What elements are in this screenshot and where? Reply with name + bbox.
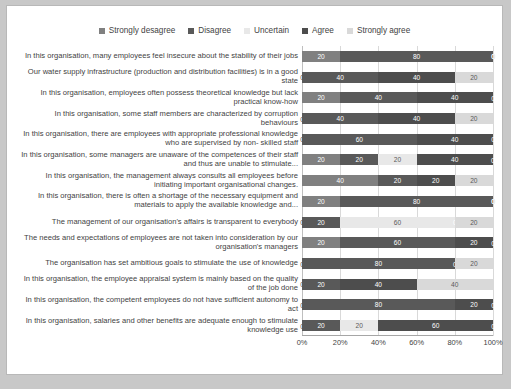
stacked-bar[interactable]: 02004040 — [302, 279, 493, 290]
category-label: The needs and expectations of employees … — [16, 234, 302, 252]
stacked-bar[interactable]: 20600200 — [302, 237, 493, 248]
bar-segment[interactable]: 80 — [302, 258, 455, 269]
legend-label: Strongly desagree — [109, 26, 175, 35]
bar-segment[interactable]: 40 — [417, 279, 493, 290]
chart-row: In this organisation, the competent empl… — [16, 295, 493, 316]
bar-value-label: 60 — [394, 239, 401, 246]
bar-segment[interactable]: 20 — [302, 196, 340, 207]
bar-segment[interactable]: 80 — [340, 51, 493, 62]
bar-segment[interactable]: 20 — [302, 51, 340, 62]
bar-segment[interactable]: 20 — [378, 175, 416, 186]
bar-segment[interactable]: 20 — [302, 237, 340, 248]
category-label: In this organisation, salaries and other… — [16, 317, 302, 335]
bar-segment[interactable]: 20 — [302, 92, 340, 103]
bar-segment[interactable]: 20 — [302, 279, 340, 290]
bar-value-label: 60 — [432, 322, 439, 329]
category-label: In this organisation, the employee appra… — [16, 275, 302, 293]
bar-value-label: 20 — [470, 74, 477, 81]
bar-segment[interactable]: 40 — [417, 92, 493, 103]
legend-swatch-icon — [244, 28, 250, 34]
bar-value-label: 20 — [317, 156, 324, 163]
legend-label: Uncertain — [254, 26, 289, 35]
bar-value-label: 20 — [432, 177, 439, 184]
plot-area: In this organisation, many employees fee… — [16, 46, 493, 366]
legend-swatch-icon — [347, 28, 353, 34]
bar-value-label: 80 — [413, 198, 420, 205]
bar-value-label: 0 — [491, 136, 495, 143]
bar-segment[interactable]: 40 — [302, 72, 378, 83]
chart-row: In this organisation, the employee appra… — [16, 274, 493, 295]
bar-segment[interactable]: 20 — [378, 154, 416, 165]
bar-segment[interactable]: 20 — [455, 175, 493, 186]
bar-segment[interactable]: 20 — [340, 320, 378, 331]
bar-segment[interactable]: 40 — [302, 113, 378, 124]
bar-value-label: 80 — [375, 301, 382, 308]
bar-segment[interactable]: 20 — [455, 237, 493, 248]
legend-swatch-icon — [302, 28, 308, 34]
bar-segment[interactable]: 20 — [302, 320, 340, 331]
bar-segment[interactable]: 40 — [340, 92, 416, 103]
x-tick-label: 60% — [409, 338, 424, 347]
chart-row: In this organisation, some managers are … — [16, 150, 493, 171]
bar-segment[interactable]: 60 — [378, 320, 493, 331]
stacked-bar[interactable]: 2080000 — [302, 51, 493, 62]
bar-segment[interactable]: 20 — [417, 175, 455, 186]
stacked-bar[interactable]: 20400400 — [302, 92, 493, 103]
bar-segment[interactable]: 40 — [417, 154, 493, 165]
bar-value-label: 20 — [470, 260, 477, 267]
stacked-bar[interactable]: 02060020 — [302, 217, 493, 228]
chart-row: In this organisation, salaries and other… — [16, 315, 493, 336]
bar-segment[interactable]: 20 — [455, 217, 493, 228]
bar-segment[interactable]: 60 — [340, 237, 455, 248]
bar-segment[interactable]: 80 — [340, 196, 493, 207]
legend-item: Strongly agree — [347, 26, 410, 35]
gridline — [493, 274, 494, 295]
bar-track: 0800020 — [302, 253, 493, 274]
chart-container: Strongly desagreeDisagreeUncertainAgreeS… — [6, 5, 503, 375]
chart-row: The organisation has set ambitious goals… — [16, 253, 493, 274]
bar-value-label: 40 — [451, 94, 458, 101]
stacked-bar[interactable]: 0800200 — [302, 299, 493, 310]
bar-value-label: 20 — [394, 177, 401, 184]
bar-segment[interactable]: 40 — [340, 279, 416, 290]
bar-value-label: 20 — [317, 322, 324, 329]
bar-value-label: 20 — [317, 198, 324, 205]
stacked-bar[interactable]: 202020400 — [302, 154, 493, 165]
stacked-bar[interactable]: 2080000 — [302, 196, 493, 207]
bar-value-label: 20 — [317, 219, 324, 226]
bar-segment[interactable]: 20 — [302, 154, 340, 165]
bar-track: 04004020 — [302, 108, 493, 129]
bar-value-label: 60 — [356, 136, 363, 143]
bar-segment[interactable]: 20 — [302, 217, 340, 228]
stacked-bar[interactable]: 02020600 — [302, 320, 493, 331]
bar-value-label: 20 — [317, 94, 324, 101]
bar-value-label: 0 — [491, 301, 495, 308]
legend-swatch-icon — [188, 28, 194, 34]
bar-segment[interactable]: 20 — [455, 299, 493, 310]
stacked-bar[interactable]: 402002020 — [302, 175, 493, 186]
legend-swatch-icon — [99, 28, 105, 34]
bar-segment[interactable]: 80 — [302, 299, 455, 310]
stacked-bar[interactable]: 0800020 — [302, 258, 493, 269]
category-label: In this organisation, employees often po… — [16, 89, 302, 107]
bar-segment[interactable]: 40 — [302, 175, 378, 186]
bar-segment[interactable]: 20 — [455, 72, 493, 83]
stacked-bar[interactable]: 04004020 — [302, 72, 493, 83]
chart-legend: Strongly desagreeDisagreeUncertainAgreeS… — [7, 26, 502, 35]
bar-segment[interactable]: 20 — [340, 154, 378, 165]
stacked-bar[interactable]: 0600400 — [302, 134, 493, 145]
bar-value-label: 20 — [394, 156, 401, 163]
bar-value-label: 20 — [317, 239, 324, 246]
bar-value-label: 40 — [337, 177, 344, 184]
stacked-bar[interactable]: 04004020 — [302, 113, 493, 124]
bar-segment[interactable]: 40 — [378, 72, 454, 83]
chart-row: The management of our organisation's aff… — [16, 212, 493, 233]
bar-segment[interactable]: 20 — [455, 258, 493, 269]
bar-segment[interactable]: 60 — [340, 217, 455, 228]
bar-segment[interactable]: 20 — [455, 113, 493, 124]
bar-segment[interactable]: 60 — [302, 134, 417, 145]
bar-segment[interactable]: 40 — [417, 134, 493, 145]
bar-value-label: 40 — [337, 74, 344, 81]
bar-segment[interactable]: 40 — [378, 113, 454, 124]
category-label: In this organisation, there is often a s… — [16, 192, 302, 210]
